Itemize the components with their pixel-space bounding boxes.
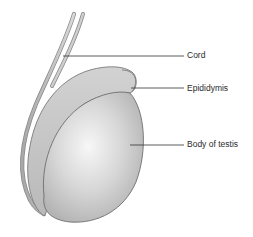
label-epididymis: Epididymis [187,84,228,93]
label-cord: Cord [187,51,205,60]
testis-diagram [0,0,253,237]
label-body-of-testis: Body of testis [187,140,238,149]
